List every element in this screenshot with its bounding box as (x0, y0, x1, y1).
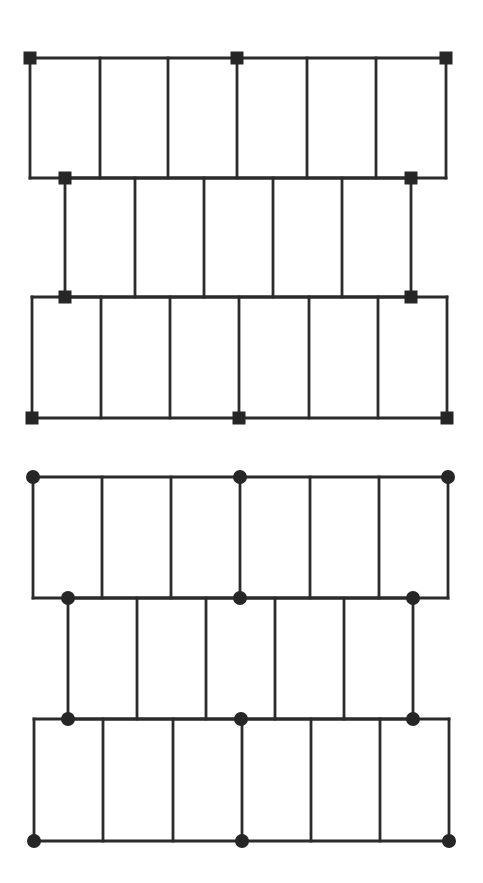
square-node-icon (26, 412, 39, 425)
circle-node-icon (406, 712, 420, 726)
square-node-icon (440, 52, 453, 65)
square-node-icon (405, 172, 418, 185)
circle-node-icon (61, 591, 75, 605)
square-node-icon (59, 172, 72, 185)
circle-node-icon (442, 834, 456, 848)
circle-node-frame-diagram (26, 470, 456, 848)
square-node-frame-diagram (24, 52, 454, 425)
diagram-canvas (0, 0, 483, 883)
square-node-icon (24, 52, 37, 65)
circle-node-icon (233, 591, 247, 605)
square-node-icon (233, 412, 246, 425)
circle-node-icon (233, 470, 247, 484)
circle-node-icon (235, 834, 249, 848)
circle-node-icon (61, 712, 75, 726)
circle-node-icon (441, 470, 455, 484)
circle-node-icon (406, 591, 420, 605)
square-node-icon (231, 52, 244, 65)
square-node-icon (441, 412, 454, 425)
square-node-icon (59, 291, 72, 304)
circle-node-icon (234, 712, 248, 726)
circle-node-icon (27, 834, 41, 848)
square-node-icon (405, 291, 418, 304)
circle-node-icon (26, 470, 40, 484)
